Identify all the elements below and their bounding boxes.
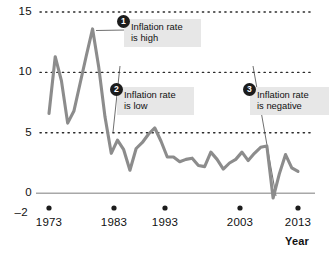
x-axis-title: Year — [285, 235, 309, 247]
annotation-badge-1: 1 — [117, 15, 130, 28]
leader-line-3 — [253, 66, 276, 196]
x-axis-tick-label-1973: 1973 — [29, 216, 69, 228]
annotation-callout-3: Inflation rate is negative — [250, 87, 329, 115]
annotation-badge-2: 2 — [110, 83, 123, 96]
annotation-callout-1: Inflation rate is high — [124, 19, 201, 47]
x-axis-tick-label-2003: 2003 — [220, 216, 260, 228]
x-axis-tick-label-1983: 1983 — [94, 216, 134, 228]
x-axis-tick-label-1993: 1993 — [145, 216, 185, 228]
y-axis-tick-label-minus2: –2 — [4, 206, 28, 218]
x-axis-tick-label-2013: 2013 — [278, 216, 318, 228]
leader-line-1 — [96, 30, 126, 31]
y-axis-tick-label-15: 15 — [8, 5, 32, 17]
y-axis-tick-label-5: 5 — [8, 126, 32, 138]
annotation-badge-3: 3 — [243, 83, 256, 96]
x-tick-dot-group — [46, 205, 300, 210]
x-tick-dot-1983 — [111, 205, 116, 210]
x-tick-dot-2013 — [295, 205, 300, 210]
x-tick-dot-1973 — [46, 205, 51, 210]
x-tick-dot-1993 — [162, 205, 167, 210]
y-axis-tick-label-0: 0 — [8, 186, 32, 198]
annotation-callout-2: Inflation rate is low — [117, 87, 194, 115]
x-tick-dot-2003 — [237, 205, 242, 210]
y-axis-tick-label-10: 10 — [8, 65, 32, 77]
